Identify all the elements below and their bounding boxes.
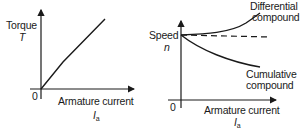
torque-curve [41, 19, 105, 89]
left-x-symbol: Ia [93, 110, 99, 124]
right-x-symbol: Ia [234, 117, 240, 130]
right-y-label: Speed [149, 30, 178, 41]
left-y-label: Torque [6, 20, 37, 31]
left-y-symbol: T [19, 32, 25, 43]
left-x-symbol-subscript: a [96, 115, 100, 122]
left-x-label: Armature current [58, 96, 134, 107]
shunt-reference-line [181, 35, 271, 37]
left-chart-axes [30, 10, 134, 99]
right-origin-label: 0 [170, 102, 176, 113]
right-y-symbol: n [164, 42, 170, 53]
right-x-symbol-subscript: a [237, 122, 241, 129]
left-origin-label: 0 [32, 91, 38, 102]
differential-compound-curve [181, 13, 260, 35]
differential-compound-label-line2: compound [252, 12, 299, 23]
cumulative-compound-label-line2: compound [246, 80, 293, 91]
right-chart-axes [168, 21, 276, 108]
right-x-label: Armature current [204, 105, 280, 116]
cumulative-compound-curve [181, 35, 260, 67]
